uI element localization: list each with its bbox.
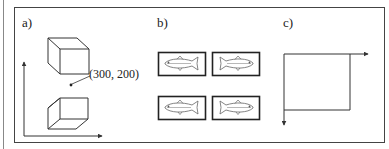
point-coordinate-label: (300, 200) [89, 67, 139, 81]
cube-lower [48, 98, 88, 129]
fish-icon [220, 100, 253, 115]
fish-icon [165, 100, 198, 115]
fish-tile [159, 53, 206, 76]
cube-upper [48, 38, 89, 74]
panel-c-label: c) [283, 15, 293, 30]
panel-a: a) (300, 200) [22, 15, 139, 136]
figure-canvas: a) (300, 200) b) [0, 0, 389, 149]
fish-icon [220, 56, 253, 71]
annotation-leader [72, 76, 90, 84]
panel-a-label: a) [22, 15, 32, 30]
fish-icon [165, 56, 198, 71]
fish-tile [213, 53, 260, 76]
fish-tile [213, 97, 260, 120]
panel-b: b) [157, 15, 260, 120]
panel-c: c) [283, 15, 368, 125]
panel-b-label: b) [157, 15, 168, 30]
fish-tile [159, 97, 206, 120]
point-marker [70, 84, 73, 87]
